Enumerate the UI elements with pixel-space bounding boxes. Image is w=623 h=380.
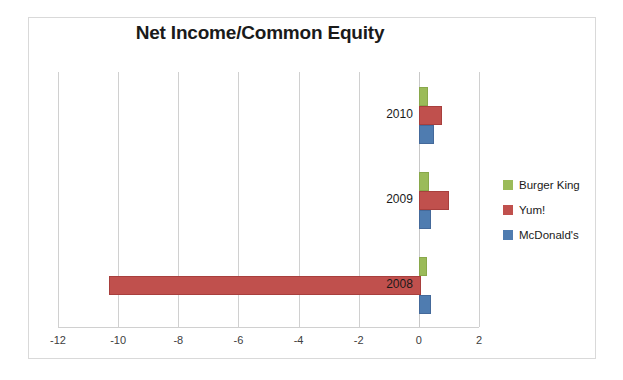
- bar: [419, 172, 429, 191]
- category-label: 2008: [353, 277, 413, 291]
- x-tick-label: -4: [279, 334, 319, 346]
- x-axis-line: [58, 327, 479, 328]
- bar: [419, 106, 442, 125]
- legend-item: Burger King: [503, 172, 595, 197]
- x-tick-label: -10: [98, 334, 138, 346]
- legend-item: Yum!: [503, 197, 595, 222]
- x-tick-label: 2: [459, 334, 499, 346]
- legend-swatch-icon: [503, 205, 513, 215]
- gridline--12: [58, 72, 59, 327]
- legend-swatch-icon: [503, 230, 513, 240]
- bar: [419, 125, 435, 144]
- x-tick-label: -2: [339, 334, 379, 346]
- bar: [419, 210, 432, 229]
- legend-label: Burger King: [519, 179, 580, 191]
- chart-title: Net Income/Common Equity: [60, 22, 460, 44]
- bar: [419, 87, 429, 106]
- x-tick-label: 0: [399, 334, 439, 346]
- legend-label: McDonald's: [519, 229, 579, 241]
- bar: [419, 191, 450, 210]
- legend-label: Yum!: [519, 204, 545, 216]
- chart-legend: Burger KingYum!McDonald's: [503, 172, 595, 247]
- legend-item: McDonald's: [503, 222, 595, 247]
- category-label: 2009: [353, 192, 413, 206]
- bar: [419, 295, 431, 314]
- bar: [419, 257, 427, 276]
- x-tick-label: -8: [158, 334, 198, 346]
- x-tick-label: -12: [38, 334, 78, 346]
- x-tick-label: -6: [218, 334, 258, 346]
- category-label: 2010: [353, 107, 413, 121]
- gridline-2: [479, 72, 480, 327]
- legend-swatch-icon: [503, 180, 513, 190]
